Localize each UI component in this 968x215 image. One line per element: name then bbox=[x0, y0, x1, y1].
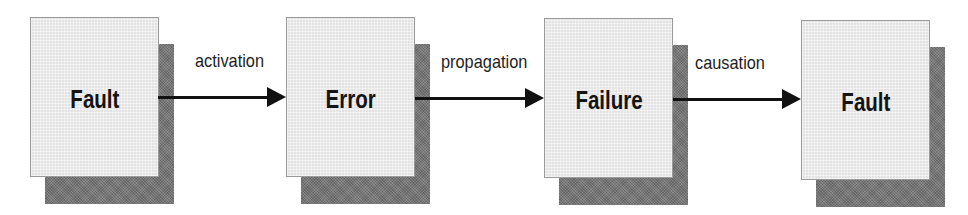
arrowhead-icon bbox=[525, 88, 544, 108]
arrowhead-icon bbox=[782, 89, 801, 109]
edge-propagation bbox=[415, 84, 544, 114]
arrow-line bbox=[673, 98, 785, 101]
node-label: Error bbox=[325, 85, 375, 114]
node-fault-1: Fault bbox=[30, 17, 159, 177]
node-label: Fault bbox=[841, 88, 890, 117]
arrow-line bbox=[158, 96, 270, 99]
node-error: Error bbox=[286, 17, 415, 177]
node-label: Failure bbox=[575, 86, 642, 115]
edge-activation bbox=[158, 83, 286, 113]
arrow-line bbox=[415, 97, 528, 100]
arrowhead-icon bbox=[267, 87, 286, 107]
edge-label-activation: activation bbox=[195, 50, 264, 72]
node-box: Failure bbox=[544, 18, 673, 178]
node-box: Error bbox=[286, 17, 415, 177]
node-fault-2: Fault bbox=[801, 20, 930, 180]
node-failure: Failure bbox=[544, 18, 673, 178]
node-box: Fault bbox=[801, 20, 930, 180]
node-label: Fault bbox=[70, 85, 119, 114]
edge-causation bbox=[673, 85, 801, 115]
edge-label-propagation: propagation bbox=[441, 51, 527, 73]
node-box: Fault bbox=[30, 17, 159, 177]
edge-label-causation: causation bbox=[695, 52, 765, 74]
